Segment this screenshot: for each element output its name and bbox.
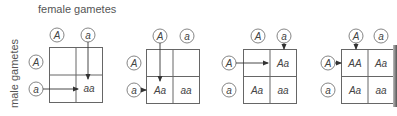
cell-a-a: aa bbox=[277, 85, 289, 96]
svg-text:A: A bbox=[156, 31, 164, 42]
punnett-panel-3: A a A a Aa Aa aa bbox=[0, 0, 397, 116]
female-allele-A: A bbox=[53, 30, 61, 41]
male-allele-a: a bbox=[33, 84, 39, 95]
punnett-panel-1: A a A a aa bbox=[0, 0, 397, 116]
svg-text:A: A bbox=[352, 31, 360, 42]
female-allele-a: a bbox=[85, 30, 91, 41]
cell-a-a: aa bbox=[180, 85, 192, 96]
svg-text:A: A bbox=[130, 58, 138, 69]
svg-text:a: a bbox=[281, 31, 287, 42]
svg-text:a: a bbox=[226, 85, 232, 96]
svg-text:A: A bbox=[225, 58, 233, 69]
punnett-square-1: A a A a aa bbox=[0, 0, 397, 116]
svg-text:A: A bbox=[324, 58, 332, 69]
punnett-square-2: A a A a Aa aa bbox=[0, 0, 397, 116]
allele-circles bbox=[29, 28, 95, 96]
svg-text:a: a bbox=[378, 31, 384, 42]
punnett-panel-2: A a A a Aa aa bbox=[0, 0, 397, 116]
male-allele-A: A bbox=[32, 57, 40, 68]
female-gametes-label: female gametes bbox=[38, 3, 116, 15]
cell-A-a: Aa bbox=[276, 58, 290, 69]
svg-text:A: A bbox=[254, 31, 262, 42]
cell-a-A: Aa bbox=[153, 85, 167, 96]
cell-a-a: aa bbox=[83, 83, 95, 94]
cell-a-a: aa bbox=[375, 85, 387, 96]
cell-A-A: AA bbox=[347, 58, 362, 69]
male-gametes-label: male gametes bbox=[8, 39, 20, 108]
punnett-panel-4: A a A a AA Aa Aa aa bbox=[0, 0, 397, 116]
svg-text:a: a bbox=[325, 85, 331, 96]
svg-text:a: a bbox=[184, 31, 190, 42]
cell-a-A: Aa bbox=[348, 85, 362, 96]
svg-text:a: a bbox=[131, 85, 137, 96]
cell-A-a: Aa bbox=[374, 58, 388, 69]
punnett-square-4: A a A a AA Aa Aa aa bbox=[0, 0, 397, 116]
arrows bbox=[43, 42, 88, 89]
page-edge-shadow bbox=[393, 45, 397, 107]
punnett-square-3: A a A a Aa Aa aa bbox=[0, 0, 397, 116]
cell-a-A: Aa bbox=[250, 85, 264, 96]
